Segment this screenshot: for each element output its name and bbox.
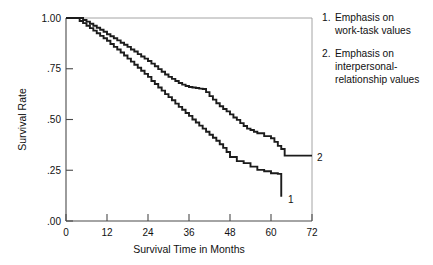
x-tick-label: 36 — [183, 227, 195, 238]
y-tick-label: .50 — [47, 114, 61, 125]
curve-end-label-1: 1 — [288, 194, 294, 205]
x-tick-label: 24 — [142, 227, 154, 238]
legend-entry-1-number: 1. — [322, 12, 331, 23]
x-axis-ticks — [66, 214, 312, 221]
legend-entry-2-line2: interpersonal- — [335, 61, 397, 72]
x-tick-label: 60 — [265, 227, 277, 238]
legend-entry-1-line2: work-task values — [334, 25, 411, 36]
y-tick-label: .75 — [47, 63, 61, 74]
survival-curve-work-task — [66, 18, 281, 197]
y-axis-tick-labels: 1.00 .75 .50 .25 .00 — [42, 13, 62, 227]
kaplan-meier-chart: 1.00 .75 .50 .25 .00 0 12 24 36 48 60 72 — [0, 0, 433, 265]
y-tick-label: .00 — [47, 216, 61, 227]
legend-entry-1-line1: Emphasis on — [335, 12, 394, 23]
y-axis-ticks — [66, 18, 73, 221]
legend-entry-2-number: 2. — [322, 48, 331, 59]
x-axis-tick-labels: 0 12 24 36 48 60 72 — [63, 227, 318, 238]
y-tick-label: .25 — [47, 165, 61, 176]
curve-end-label-2: 2 — [317, 152, 323, 163]
x-tick-label: 0 — [63, 227, 69, 238]
x-tick-label: 12 — [101, 227, 113, 238]
y-axis-title: Survival Rate — [16, 88, 28, 151]
legend: 1. Emphasis on work-task values 2. Empha… — [322, 12, 419, 85]
y-tick-label: 1.00 — [42, 13, 62, 24]
x-tick-label: 72 — [306, 227, 318, 238]
survival-curve-figure: 1.00 .75 .50 .25 .00 0 12 24 36 48 60 72 — [0, 0, 433, 265]
x-tick-label: 48 — [224, 227, 236, 238]
legend-entry-2-line3: relationship values — [335, 74, 419, 85]
x-axis-title: Survival Time in Months — [133, 243, 244, 255]
legend-entry-2-line1: Emphasis on — [335, 48, 394, 59]
